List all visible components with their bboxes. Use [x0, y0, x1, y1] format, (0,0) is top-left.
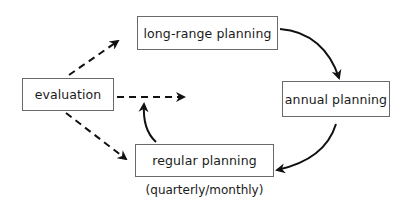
node-label: regular planning — [152, 153, 257, 168]
arrow-evaluation-to-regular — [66, 113, 126, 159]
node-evaluation: evaluation — [22, 78, 114, 111]
node-long-range-planning: long-range planning — [137, 16, 278, 50]
node-label: annual planning — [285, 92, 387, 107]
node-label: evaluation — [35, 87, 102, 102]
node-label: long-range planning — [144, 26, 272, 41]
arrow-annual-to-regular — [277, 124, 336, 170]
arrow-regular-to-open — [144, 104, 156, 142]
arrow-evaluation-to-long-range — [69, 41, 118, 75]
node-annual-planning: annual planning — [282, 81, 390, 117]
arrow-long-range-to-annual — [280, 29, 339, 78]
node-regular-planning: regular planning — [135, 144, 274, 177]
regular-planning-note: (quarterly/monthly) — [135, 183, 274, 197]
